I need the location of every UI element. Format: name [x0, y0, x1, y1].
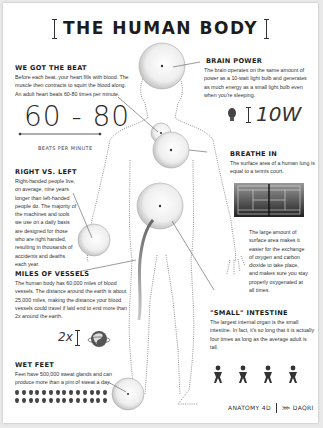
vessels-heading: MILES OF VESSELS — [15, 270, 89, 278]
beat-body: Before each beat, your heart fills with … — [15, 73, 130, 98]
daqri-logo-icon: ⋙ — [282, 404, 293, 411]
sweat-drop-icon — [49, 390, 53, 395]
person-icon — [239, 366, 247, 383]
sweat-drop-icon — [76, 390, 80, 395]
sweat-drop-icon — [29, 390, 33, 395]
sweat-drop-icon — [69, 390, 73, 395]
sweat-drop-icon — [90, 398, 94, 403]
footer-brands: ANATOMY 4D⋙ DAQRI — [228, 403, 314, 413]
beat-stat-label: BEATS PER MINUTE — [38, 145, 92, 151]
sweat-drop-icon — [69, 398, 73, 403]
light-bulb-icon — [228, 108, 236, 121]
beat-range-bar — [19, 133, 101, 135]
breathe-body: The surface area of a human lung is equa… — [230, 159, 315, 176]
brain-stat: 10W — [256, 102, 301, 126]
sweat-drop-icon — [49, 398, 53, 403]
beat-stat: 60 - 80 — [24, 100, 130, 133]
beat-heading: WE GOT THE BEAT — [15, 64, 87, 72]
brand-anatomy4d: ANATOMY 4D — [228, 404, 271, 411]
sweat-drop-icon — [56, 398, 60, 403]
sweat-drop-icon — [96, 398, 100, 403]
intestine-body: The largest internal organ is the small … — [210, 318, 315, 351]
person-icon — [214, 366, 222, 383]
blood-vessel — [139, 220, 153, 320]
vessels-stat: 2x — [58, 330, 73, 344]
sweat-drop-icon — [42, 398, 46, 403]
right-left-body: Right-handed people live, on average, ni… — [15, 177, 77, 268]
globe-icon — [88, 331, 110, 347]
feet-heading: WET FEET — [15, 361, 54, 369]
vessels-divider — [77, 330, 78, 346]
breathe-body-2: The large amount of surface area makes i… — [249, 228, 309, 294]
feet-body: Feet have 500,000 sweat glands and can p… — [15, 370, 115, 387]
tennis-court-icon — [234, 183, 304, 217]
hand-organ — [78, 224, 110, 256]
sweat-drop-icon — [103, 398, 107, 403]
sweat-drop-icon — [83, 398, 87, 403]
brand-daqri: DAQRI — [293, 404, 314, 411]
sweat-drop-icon — [103, 390, 107, 395]
right-left-heading: RIGHT VS. LEFT — [15, 168, 77, 176]
sweat-drop-icon — [90, 390, 94, 395]
person-icon — [289, 366, 297, 383]
sweat-drop-icon — [56, 390, 60, 395]
sweat-drop-icon — [35, 390, 39, 395]
intestine-heading: "SMALL" INTESTINE — [210, 309, 288, 317]
sweat-drops — [15, 390, 110, 403]
sweat-drop-icon — [22, 398, 26, 403]
intestine-figures — [214, 366, 297, 383]
brain-heading: BRAIN POWER — [206, 57, 262, 65]
person-icon — [264, 366, 272, 383]
sweat-drop-icon — [15, 390, 19, 395]
sweat-drop-icon — [76, 398, 80, 403]
sweat-drop-icon — [42, 390, 46, 395]
breathe-heading: BREATHE IN — [230, 150, 277, 158]
brain-body: The brain operates on the same amount of… — [204, 66, 309, 99]
sweat-drop-icon — [35, 398, 39, 403]
sweat-drop-icon — [29, 398, 33, 403]
sweat-drop-icon — [15, 398, 19, 403]
sweat-drop-icon — [96, 390, 100, 395]
brain-divider — [248, 107, 249, 123]
sweat-drop-icon — [62, 398, 66, 403]
sweat-drop-icon — [22, 390, 26, 395]
vessels-body: The human body has 60,000 miles of blood… — [15, 279, 127, 320]
sweat-drop-icon — [62, 390, 66, 395]
footer-divider — [276, 403, 277, 413]
sweat-drop-icon — [83, 390, 87, 395]
